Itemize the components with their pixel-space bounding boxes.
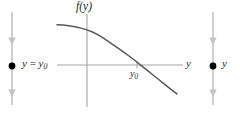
- function-curve: [57, 25, 177, 94]
- right-phase-line: [209, 12, 216, 105]
- left-equilibrium-dot: [9, 63, 16, 70]
- left-arrow-below-down-icon: [8, 90, 15, 98]
- f-of-y-text: f(y): [76, 0, 92, 12]
- root-label-subscript: 0: [134, 73, 138, 81]
- left-eq-label-subscript: 0: [44, 62, 48, 71]
- left-arrow-above-down-icon: [8, 38, 15, 46]
- left-phase-line: [8, 12, 15, 105]
- right-equilibrium-dot: [210, 63, 217, 70]
- figure-container: f(y) y y0 y = y0 y: [0, 0, 241, 116]
- right-phase-line-label: y: [222, 58, 227, 69]
- right-arrow-below-down-icon: [209, 90, 216, 98]
- main-axes: [57, 14, 183, 107]
- left-equilibrium-label: y = y0: [22, 58, 47, 71]
- right-phase-line-text: y: [222, 57, 227, 69]
- y-axis-label: y: [186, 58, 191, 69]
- root-label: y0: [130, 69, 138, 81]
- left-eq-label-operator: =: [27, 57, 39, 69]
- f-of-y-axis-label: f(y): [76, 1, 92, 13]
- y-axis-text: y: [186, 57, 191, 69]
- right-arrow-above-down-icon: [209, 38, 216, 46]
